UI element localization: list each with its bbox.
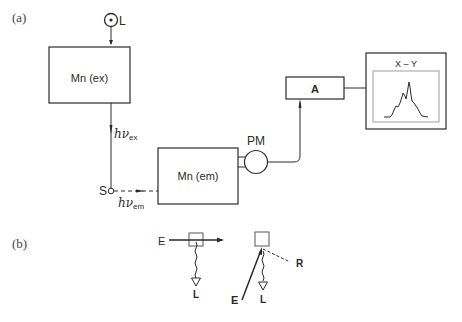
emission-monochromator: Mn (em) bbox=[158, 148, 238, 204]
sample-label: S bbox=[99, 184, 107, 198]
emission-monochromator-label: Mn (em) bbox=[178, 170, 219, 182]
photomultiplier: PM bbox=[238, 134, 268, 174]
sample: S bbox=[99, 184, 114, 198]
xy-recorder: X – Y bbox=[366, 53, 446, 129]
panel-b-label: (b) bbox=[12, 236, 27, 251]
left-excitation-arrow-icon bbox=[217, 238, 224, 243]
excitation-photon-label: hνex bbox=[114, 127, 137, 142]
amplifier-label: A bbox=[311, 83, 319, 95]
emission-arrow-icon bbox=[136, 190, 145, 193]
panel-a-label: (a) bbox=[12, 10, 26, 25]
front-geometry-right: E R L bbox=[231, 232, 304, 306]
amplifier: A bbox=[286, 77, 344, 99]
photomultiplier-label: PM bbox=[247, 134, 265, 148]
xy-recorder-label: X – Y bbox=[395, 59, 417, 69]
excitation-monochromator-label: Mn (ex) bbox=[71, 72, 108, 84]
right-excitation-arrow-icon bbox=[259, 247, 263, 255]
excitation-monochromator: Mn (ex) bbox=[49, 47, 130, 103]
reflected-label: R bbox=[296, 258, 304, 269]
left-luminescence-arrow-icon bbox=[192, 278, 201, 286]
emission-photon-label: hνem bbox=[118, 196, 144, 211]
light-source-label: L bbox=[119, 14, 126, 28]
photomultiplier-icon bbox=[245, 151, 268, 174]
signal-arrow-icon bbox=[299, 99, 302, 108]
right-excitation-label: E bbox=[231, 294, 238, 306]
excitation-arrow-icon bbox=[110, 125, 113, 134]
left-luminescence-label: L bbox=[193, 289, 199, 300]
light-source: L bbox=[105, 14, 127, 45]
front-geometry-left: E L bbox=[158, 233, 224, 300]
left-excitation-label: E bbox=[158, 235, 165, 247]
right-luminescence-label: L bbox=[260, 294, 266, 305]
right-luminescence-arrow-icon bbox=[259, 282, 268, 290]
